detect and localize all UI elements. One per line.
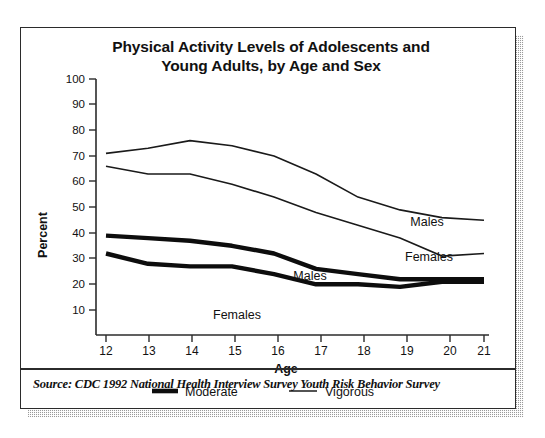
- y-tick-label: 10: [72, 304, 85, 316]
- source-note: Source: CDC 1992 National Health Intervi…: [33, 377, 505, 392]
- line-chart: 100 90 80 70 60 50 40 30 20 10 Percent: [21, 28, 517, 410]
- x-axis-tick-labels: 12 13 14 15 16 17 18 19 20 21: [99, 344, 491, 358]
- y-axis-ticks: [89, 79, 96, 310]
- y-tick-label: 60: [72, 175, 85, 187]
- series-line-vigorous-females: [106, 166, 484, 256]
- y-tick-label: 70: [72, 150, 85, 162]
- x-tick-label: 16: [271, 344, 285, 358]
- x-axis-ticks: [106, 335, 484, 342]
- annotation-vigorous-females: Females: [405, 250, 453, 264]
- y-tick-label: 80: [72, 124, 85, 136]
- figure-page: Physical Activity Levels of Adolescents …: [0, 0, 545, 438]
- y-tick-label: 90: [72, 98, 85, 110]
- annotation-moderate-males: Males: [293, 269, 326, 283]
- y-tick-label: 50: [72, 201, 85, 213]
- x-tick-label: 18: [357, 344, 371, 358]
- annotation-vigorous-males: Males: [410, 215, 443, 229]
- figure-frame: Physical Activity Levels of Adolescents …: [20, 27, 516, 409]
- y-tick-label: 30: [72, 252, 85, 264]
- x-tick-label: 19: [400, 344, 414, 358]
- x-tick-label: 12: [99, 344, 113, 358]
- y-axis-title: Percent: [36, 211, 50, 258]
- x-tick-label: 17: [314, 344, 328, 358]
- x-tick-label: 20: [443, 344, 457, 358]
- series-line-vigorous-males: [106, 141, 484, 221]
- x-tick-label: 14: [185, 344, 199, 358]
- y-tick-label: 40: [72, 227, 85, 239]
- annotation-moderate-females: Females: [213, 308, 261, 322]
- x-tick-label: 21: [477, 344, 491, 358]
- x-tick-label: 13: [142, 344, 156, 358]
- source-divider: [21, 368, 515, 370]
- x-tick-label: 15: [228, 344, 242, 358]
- y-tick-label: 100: [66, 73, 85, 85]
- y-tick-label: 20: [72, 278, 85, 290]
- y-axis-tick-labels: 100 90 80 70 60 50 40 30 20 10: [66, 73, 85, 316]
